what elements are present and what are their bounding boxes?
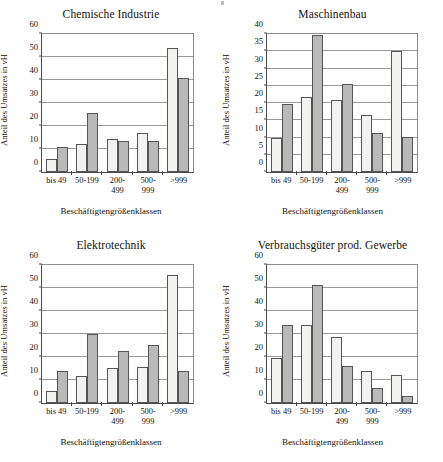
- bar-series2: [312, 35, 323, 172]
- y-axis-tick-label: 10: [29, 365, 38, 375]
- y-axis-tick-label: 30: [254, 319, 263, 329]
- bar-series2: [57, 371, 68, 403]
- plot-frame: 0102030405060: [266, 264, 418, 404]
- y-axis-tick-label: 10: [254, 365, 263, 375]
- bar-category-group: [387, 34, 417, 172]
- y-axis-tick-label: 50: [29, 42, 38, 52]
- y-axis-tick-label: 20: [29, 342, 38, 352]
- bar-category-group: [267, 34, 297, 172]
- x-axis-tick-label: bis 49: [266, 176, 296, 204]
- y-axis-tick-label: 40: [29, 65, 38, 75]
- y-axis-label: Anteil des Umsatzes in vH: [221, 30, 233, 170]
- bar-category-group: [133, 34, 163, 172]
- plot-frame: 0102030405060: [41, 33, 194, 173]
- x-axis-label: Beschäftigtengrößenklassen: [222, 437, 443, 447]
- y-axis-tick-label: 0: [259, 157, 263, 167]
- bar-group-container: [267, 34, 417, 172]
- bar-series2: [148, 141, 159, 172]
- x-axis-tick-labels: bis 4950-199200-499500-999>999: [266, 176, 418, 204]
- x-axis-label: Beschäftigtengrößenklassen: [0, 437, 222, 447]
- bar-series2: [282, 325, 293, 403]
- bar-series1: [137, 133, 148, 172]
- bar-category-group: [42, 265, 72, 403]
- plot-area: 0102030405060: [41, 33, 194, 173]
- bar-group-container: [42, 265, 193, 403]
- x-axis-tick-label: 50-199: [296, 407, 326, 435]
- bar-series2: [178, 78, 189, 172]
- bar-category-group: [72, 265, 102, 403]
- bar-category-group: [357, 265, 387, 403]
- bar-category-group: [163, 34, 193, 172]
- bar-series2: [312, 285, 323, 403]
- y-axis-tick-label: 50: [254, 273, 263, 283]
- x-axis-tick-label: >999: [388, 407, 418, 435]
- bar-category-group: [327, 34, 357, 172]
- bar-group-container: [267, 265, 417, 403]
- bar-category-group: [42, 34, 72, 172]
- bar-series1: [107, 139, 118, 172]
- y-axis-tick-label: 10: [29, 134, 38, 144]
- y-axis-tick-label: 10: [254, 123, 263, 133]
- bar-series1: [331, 337, 342, 403]
- bar-series2: [118, 351, 129, 403]
- x-axis-tick-labels: bis 4950-199200-499500-999>999: [41, 407, 194, 435]
- y-axis-tick-label: 50: [29, 273, 38, 283]
- y-axis-tick-label: 60: [29, 250, 38, 260]
- chart-panel-elektrotechnik: Elektrotechnik Anteil des Umsatzes in vH…: [0, 231, 222, 462]
- y-axis-tick-label: 30: [254, 54, 263, 64]
- x-axis-tick-label: 50-199: [296, 176, 326, 204]
- bar-series1: [46, 159, 57, 172]
- bar-series1: [331, 100, 342, 172]
- y-axis-tick-label: 5: [259, 140, 263, 150]
- y-axis-tick-label: 60: [29, 19, 38, 29]
- x-axis-tick-label: 500-999: [133, 176, 164, 204]
- bar-category-group: [267, 265, 297, 403]
- y-axis-tick-label: 30: [29, 319, 38, 329]
- plot-area: 0510152025303540: [266, 33, 418, 173]
- y-axis-tick-label: 25: [254, 71, 263, 81]
- bar-series2: [342, 84, 353, 172]
- bar-category-group: [297, 265, 327, 403]
- bar-series2: [57, 147, 68, 172]
- x-axis-tick-label: 50-199: [72, 176, 103, 204]
- y-axis-tick-label: 40: [254, 296, 263, 306]
- y-axis-tick-label: 20: [29, 111, 38, 121]
- bar-category-group: [72, 34, 102, 172]
- bar-category-group: [102, 265, 132, 403]
- x-axis-label: Beschäftigtengrößenklassen: [222, 206, 443, 216]
- x-axis-tick-label: bis 49: [41, 176, 72, 204]
- y-axis-tick-label: 20: [254, 342, 263, 352]
- bar-series2: [372, 133, 383, 172]
- x-axis-tick-label: 500-999: [357, 407, 387, 435]
- y-axis-tick-label: 30: [29, 88, 38, 98]
- y-axis-tick-label: 0: [259, 388, 263, 398]
- bar-series1: [107, 368, 118, 403]
- x-axis-tick-label: >999: [163, 176, 194, 204]
- x-axis-tick-label: 500-999: [133, 407, 164, 435]
- x-axis-tick-label: 200-499: [102, 176, 133, 204]
- bar-category-group: [133, 265, 163, 403]
- x-axis-tick-label: >999: [388, 176, 418, 204]
- chart-panel-verbrauchsgueter: Verbrauchsgüter prod. Gewerbe Anteil des…: [222, 231, 443, 462]
- bar-series2: [118, 141, 129, 172]
- bar-series1: [271, 358, 282, 403]
- bar-series2: [178, 371, 189, 403]
- bar-group-container: [42, 34, 193, 172]
- y-axis-tick-label: 35: [254, 36, 263, 46]
- bar-category-group: [327, 265, 357, 403]
- bar-series1: [391, 51, 402, 172]
- chart-panel-maschinenbau: Maschinenbau Anteil des Umsatzes in vH 0…: [222, 0, 443, 231]
- bar-series2: [372, 388, 383, 403]
- bar-series1: [167, 48, 178, 172]
- y-axis-label: Anteil des Umsatzes in vH: [221, 261, 233, 401]
- x-axis-tick-label: bis 49: [266, 407, 296, 435]
- x-axis-tick-labels: bis 4950-199200-499500-999>999: [266, 407, 418, 435]
- y-axis-tick-label: 20: [254, 88, 263, 98]
- bar-series1: [271, 138, 282, 172]
- x-axis-tick-label: >999: [163, 407, 194, 435]
- bar-series1: [361, 115, 372, 172]
- bar-series1: [167, 275, 178, 403]
- plot-area: 0102030405060: [266, 264, 418, 404]
- scan-artifact: [221, 1, 224, 5]
- y-axis-tick-label: 0: [34, 388, 38, 398]
